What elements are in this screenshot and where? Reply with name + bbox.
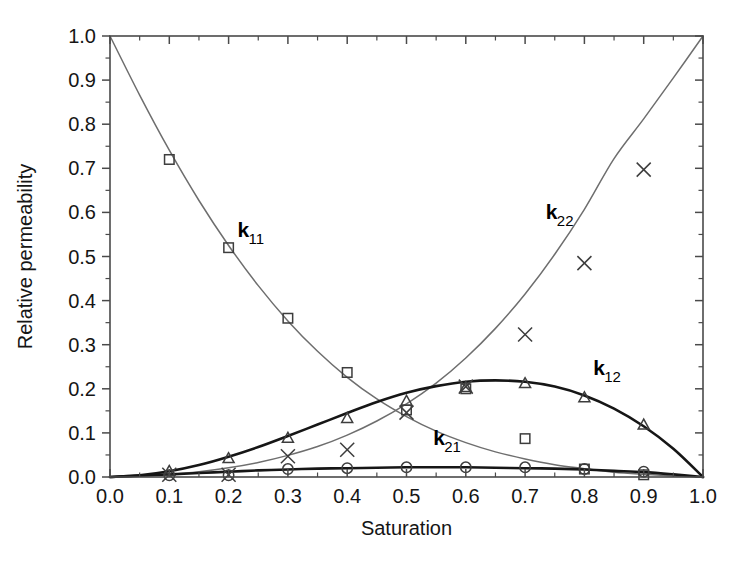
x-tick-label: 0.2 bbox=[215, 485, 243, 507]
y-tick-label: 0.1 bbox=[68, 422, 96, 444]
x-tick-label: 0.7 bbox=[511, 485, 539, 507]
x-tick-label: 0.8 bbox=[570, 485, 598, 507]
x-tick-label: 0.3 bbox=[274, 485, 302, 507]
plot-background bbox=[110, 36, 703, 477]
y-tick-label: 0.2 bbox=[68, 378, 96, 400]
x-tick-label: 0.9 bbox=[630, 485, 658, 507]
x-tick-label: 0.4 bbox=[333, 485, 361, 507]
series-label-subscript: 21 bbox=[444, 438, 461, 455]
x-tick-label: 0.1 bbox=[155, 485, 183, 507]
x-tick-label: 0.6 bbox=[452, 485, 480, 507]
series-label-subscript: 22 bbox=[557, 212, 574, 229]
x-tick-label: 1.0 bbox=[689, 485, 717, 507]
y-tick-label: 0.8 bbox=[68, 113, 96, 135]
y-axis-title: Relative permeability bbox=[14, 164, 36, 350]
y-tick-label: 0.9 bbox=[68, 69, 96, 91]
y-tick-label: 0.5 bbox=[68, 246, 96, 268]
y-tick-label: 1.0 bbox=[68, 25, 96, 47]
y-tick-label: 0.7 bbox=[68, 157, 96, 179]
y-tick-label: 0.6 bbox=[68, 201, 96, 223]
figure-container: 0.00.10.20.30.40.50.60.70.80.91.00.00.10… bbox=[0, 0, 746, 561]
x-tick-label: 0.5 bbox=[393, 485, 421, 507]
series-label-subscript: 11 bbox=[249, 230, 265, 247]
x-tick-label: 0.0 bbox=[96, 485, 124, 507]
x-axis-title: Saturation bbox=[361, 517, 452, 539]
y-tick-label: 0.0 bbox=[68, 466, 96, 488]
y-tick-label: 0.4 bbox=[68, 290, 96, 312]
relative-permeability-chart: 0.00.10.20.30.40.50.60.70.80.91.00.00.10… bbox=[0, 0, 746, 561]
series-label-subscript: 12 bbox=[604, 368, 621, 385]
y-tick-label: 0.3 bbox=[68, 334, 96, 356]
